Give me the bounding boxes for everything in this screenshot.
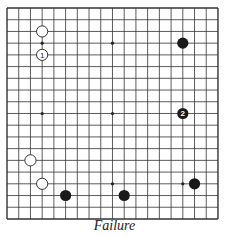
move-number: 1	[40, 51, 45, 60]
star-point	[181, 182, 184, 185]
star-point	[41, 42, 44, 45]
star-point	[41, 112, 44, 115]
white-stone: 1	[37, 49, 48, 60]
star-point	[111, 182, 114, 185]
white-stone	[37, 26, 48, 37]
black-stone	[119, 190, 130, 201]
move-number: 2	[181, 109, 186, 118]
black-stone	[60, 190, 71, 201]
white-stone	[25, 155, 36, 166]
black-stone	[177, 38, 188, 49]
go-board: 12	[0, 0, 229, 220]
black-stone: 2	[177, 108, 188, 119]
star-point	[111, 42, 114, 45]
white-stone	[37, 178, 48, 189]
diagram-caption: Failure	[0, 218, 229, 234]
star-point	[111, 112, 114, 115]
black-stone	[189, 178, 200, 189]
